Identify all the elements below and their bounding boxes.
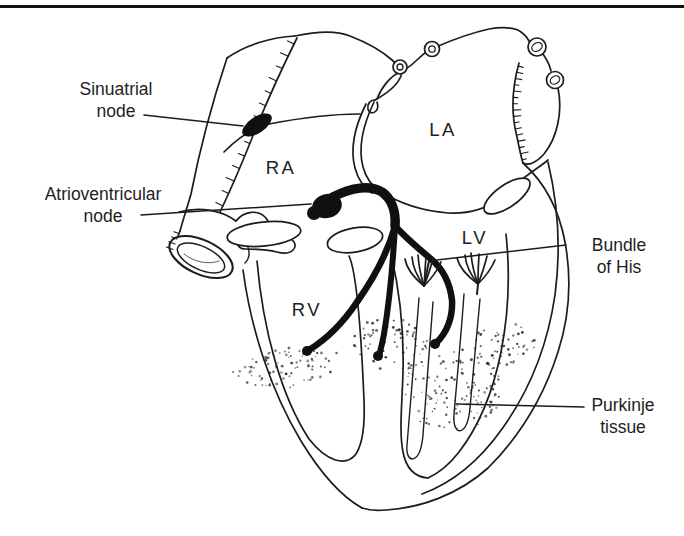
label-bundle-of-his: Bundle of His xyxy=(592,234,647,278)
av-node-shape xyxy=(307,206,321,220)
rv-inner-wall xyxy=(257,256,364,461)
chamber-label-la: LA xyxy=(429,119,457,141)
bundle-foot xyxy=(302,346,312,356)
septum-line-b xyxy=(361,102,380,191)
label-line: Purkinje xyxy=(591,394,654,416)
label-line: of His xyxy=(592,256,647,278)
la-fringe-edge xyxy=(513,63,523,163)
hatch-ticks xyxy=(167,41,529,250)
sa-node-shape xyxy=(238,109,275,141)
valve-leaflets xyxy=(226,172,535,257)
leader-atrioventricular xyxy=(141,204,311,215)
label-atrioventricular-node: Atrioventricular node xyxy=(45,183,162,227)
label-line: node xyxy=(80,100,153,122)
chamber-label-lv: LV xyxy=(462,227,488,249)
bundle-foot xyxy=(373,351,383,361)
figure-heart-conduction: Sinuatrial node Atrioventricular node Bu… xyxy=(0,0,684,536)
pv-neck xyxy=(543,54,551,71)
la-outer-top-right xyxy=(523,88,560,164)
label-purkinje-tissue: Purkinje tissue xyxy=(591,394,654,438)
label-line: node xyxy=(45,205,162,227)
pulmonary-vein-openings xyxy=(393,38,564,89)
leader-purkinje xyxy=(456,404,584,407)
svc-dome xyxy=(295,32,401,100)
label-line: Bundle xyxy=(592,234,647,256)
tricuspid-leaflet-2 xyxy=(325,223,384,256)
bundle-foot xyxy=(430,339,440,349)
purkinje-fan xyxy=(457,253,495,294)
leader-bundle-of-his xyxy=(437,245,566,260)
chamber-label-ra: RA xyxy=(266,157,297,179)
bundle-of-his-path xyxy=(333,188,395,226)
lv-trabecula-2 xyxy=(454,294,480,431)
mitral-leaflet xyxy=(479,172,536,221)
leader-sinuatrial xyxy=(144,115,243,126)
label-line: Sinuatrial xyxy=(80,78,153,100)
label-line: tissue xyxy=(591,416,654,438)
label-sinuatrial-node: Sinuatrial node xyxy=(80,78,153,122)
chamber-label-rv: RV xyxy=(292,299,322,321)
label-line: Atrioventricular xyxy=(45,183,162,205)
